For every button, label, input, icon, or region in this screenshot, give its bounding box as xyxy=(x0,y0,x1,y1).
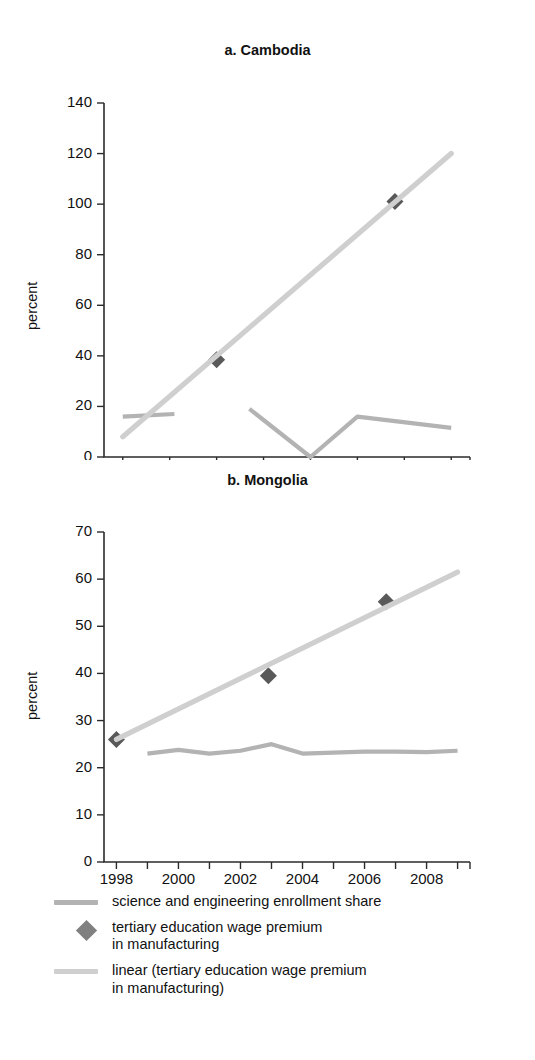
chart-svg-mongolia: 010203040506070199820002002200420062008 xyxy=(0,490,535,885)
legend-trendline-icon xyxy=(54,969,98,974)
x-tick-label: 1998 xyxy=(100,870,133,885)
y-tick-label: 20 xyxy=(75,396,92,413)
series-trendline xyxy=(116,572,457,739)
y-tick-label: 120 xyxy=(67,144,92,161)
legend-label-line: linear (tertiary education wage premium xyxy=(112,962,367,980)
y-tick-label: 30 xyxy=(75,711,92,728)
legend-diamond-icon xyxy=(76,920,97,941)
x-tick-label: 2008 xyxy=(410,870,443,885)
y-tick-label: 70 xyxy=(75,522,92,539)
series-enrollment-line xyxy=(249,409,451,457)
y-tick-label: 20 xyxy=(75,758,92,775)
legend-label-line: in manufacturing xyxy=(112,936,322,954)
y-tick-label: 60 xyxy=(75,569,92,586)
legend-label: linear (tertiary education wage premiumi… xyxy=(112,961,367,997)
y-tick-label: 100 xyxy=(67,194,92,211)
legend-key xyxy=(0,892,112,905)
y-axis-label-cambodia: percent xyxy=(24,282,40,330)
legend-label-line: in manufacturing) xyxy=(112,980,367,998)
legend-label-line: tertiary education wage premium xyxy=(112,919,322,937)
legend-item: linear (tertiary education wage premiumi… xyxy=(0,961,535,997)
y-tick-label: 60 xyxy=(75,295,92,312)
figure-container: a. Cambodia percent 02040608010012014020… xyxy=(0,0,535,1060)
legend-key xyxy=(0,918,112,938)
x-tick-label: 2002 xyxy=(224,870,257,885)
legend-line-icon xyxy=(54,900,98,905)
chart-svg-cambodia: 0204060801001201402001200220032004200520… xyxy=(0,60,535,460)
chart-title-cambodia: a. Cambodia xyxy=(0,40,535,60)
series-trendline xyxy=(123,154,451,437)
y-tick-label: 80 xyxy=(75,245,92,262)
y-tick-label: 50 xyxy=(75,616,92,633)
legend-key xyxy=(0,961,112,974)
chart-panel-mongolia: b. Mongolia percent 01020304050607019982… xyxy=(0,470,535,885)
x-tick-label: 2004 xyxy=(286,870,319,885)
y-tick-label: 40 xyxy=(75,663,92,680)
chart-title-mongolia: b. Mongolia xyxy=(0,470,535,490)
x-tick-label: 2006 xyxy=(348,870,381,885)
y-tick-label: 40 xyxy=(75,346,92,363)
y-tick-label: 0 xyxy=(84,447,92,460)
series-enrollment-line xyxy=(147,744,457,753)
y-tick-label: 140 xyxy=(67,93,92,110)
chart-legend: science and engineering enrollment share… xyxy=(0,892,535,1004)
legend-label: tertiary education wage premiumin manufa… xyxy=(112,918,322,954)
y-axis-label-mongolia: percent xyxy=(24,672,40,720)
legend-label-line: science and engineering enrollment share xyxy=(112,893,381,911)
chart-panel-cambodia: a. Cambodia percent 02040608010012014020… xyxy=(0,40,535,460)
x-tick-label: 2000 xyxy=(162,870,195,885)
legend-item: tertiary education wage premiumin manufa… xyxy=(0,918,535,954)
legend-label: science and engineering enrollment share xyxy=(112,892,381,911)
y-tick-label: 0 xyxy=(84,852,92,869)
y-tick-label: 10 xyxy=(75,805,92,822)
legend-item: science and engineering enrollment share xyxy=(0,892,535,911)
figure-title xyxy=(0,0,535,8)
